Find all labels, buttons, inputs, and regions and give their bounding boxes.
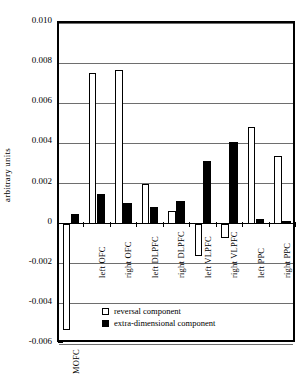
bar-open-3 [142,184,150,223]
x-category-label: left PPC [257,247,266,277]
bar-open-5 [195,224,203,256]
y-tick-label: 0.010 [8,16,52,25]
y-tick-label: 0.004 [8,136,52,145]
legend-filled-square-icon [102,320,109,327]
bar-filled-7 [256,219,265,223]
x-category-label: left DLPFC [151,236,160,278]
x-category-label: right DLPFC [177,231,186,278]
plot-area [57,21,295,342]
bar-open-7 [248,127,256,224]
y-axis-ticks: 0.0100.0080.0060.0040.0020-0.002-0.004-0… [6,0,52,372]
y-tick-label: 0.002 [8,177,52,186]
x-category-label: right OFC [124,241,133,278]
y-tick-label: 0 [8,217,52,226]
y-tick-label: 0.008 [8,56,52,65]
y-tick-label: 0.006 [8,96,52,105]
y-tick-label: -0.006 [8,337,52,346]
bar-filled-6 [229,142,238,224]
bar-filled-4 [176,201,185,224]
x-tick-mark [295,222,296,227]
bar-open-4 [168,211,176,224]
bar-open-2 [115,70,123,224]
y-tick-label: -0.004 [8,297,52,306]
gridline [59,344,293,345]
x-tick-mark [189,222,190,227]
x-tick-mark [216,222,217,227]
x-tick-mark [57,222,58,227]
x-tick-mark [269,222,270,227]
bar-open-0 [63,224,71,330]
legend-label: reversal component [114,305,181,317]
legend-open-square-icon [102,308,109,315]
x-tick-mark [110,222,111,227]
x-category-label: left VLPFC [204,236,213,278]
bar-filled-2 [123,203,132,224]
bar-filled-1 [97,194,106,223]
bar-filled-5 [203,161,212,223]
x-tick-mark [242,222,243,227]
x-category-label: right VLPFC [230,231,239,278]
chart-legend: reversal componentextra-dimensional comp… [102,305,215,329]
x-category-label: right PPC [283,243,292,278]
bar-filled-0 [71,214,80,224]
legend-item: reversal component [102,305,215,317]
legend-label: extra-dimensional component [114,317,215,329]
y-tick-label: -0.002 [8,257,52,266]
x-tick-mark [163,222,164,227]
bar-filled-8 [282,221,291,224]
x-category-label: MOFC [72,349,81,374]
legend-item: extra-dimensional component [102,317,215,329]
x-tick-mark [136,222,137,227]
bar-open-6 [221,224,229,238]
bar-open-1 [89,73,97,223]
bar-filled-3 [150,207,159,224]
x-category-label: left OFC [98,246,107,278]
x-tick-mark [83,222,84,227]
bar-open-8 [274,156,282,224]
bar-group [59,23,293,340]
